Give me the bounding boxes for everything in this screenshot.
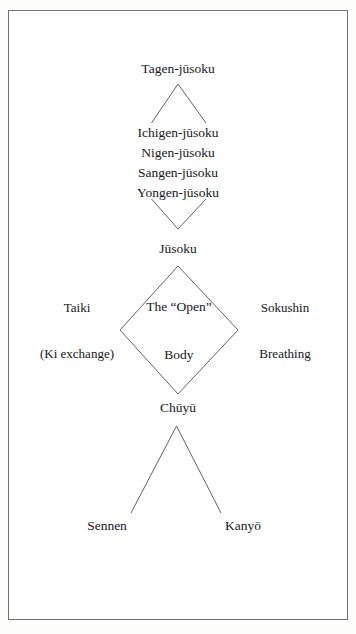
edge-leaf-left xyxy=(131,426,177,513)
node-sennen: Sennen xyxy=(87,518,127,534)
node-ichigen-jusoku: Ichigen-jūsoku xyxy=(138,125,219,141)
edge-bottom-left xyxy=(152,199,179,229)
node-open-body: The “Open” Body xyxy=(146,267,212,394)
edge-bottom-right xyxy=(178,199,206,229)
node-sangen-jusoku: Sangen-jūsoku xyxy=(138,165,218,181)
node-taiki: Taiki (Ki exchange) xyxy=(40,269,114,392)
node-nigen-jusoku: Nigen-jūsoku xyxy=(141,145,215,161)
edge-top-right xyxy=(178,84,206,123)
edge-top-left xyxy=(152,84,179,123)
node-taiki-line-2: (Ki exchange) xyxy=(40,345,114,360)
node-chuyu: Chūyū xyxy=(160,400,196,416)
node-open-body-line-1: The “Open” xyxy=(146,299,212,315)
node-sokushin-line-2: Breathing xyxy=(259,345,310,360)
node-tagen-jusoku: Tagen-jūsoku xyxy=(141,61,214,77)
node-yongen-jusoku: Yongen-jūsoku xyxy=(137,185,219,201)
node-open-body-line-2: Body xyxy=(146,347,212,363)
edge-leaf-right xyxy=(177,426,222,513)
node-kanyo: Kanyō xyxy=(225,518,261,534)
node-taiki-line-1: Taiki xyxy=(40,299,114,314)
node-sokushin-line-1: Sokushin xyxy=(259,299,310,314)
node-jusoku: Jūsoku xyxy=(159,241,197,257)
node-sokushin-breathing: Sokushin Breathing xyxy=(259,269,310,392)
figure-page: Tagen-jūsoku Ichigen-jūsoku Nigen-jūsoku… xyxy=(0,0,356,634)
